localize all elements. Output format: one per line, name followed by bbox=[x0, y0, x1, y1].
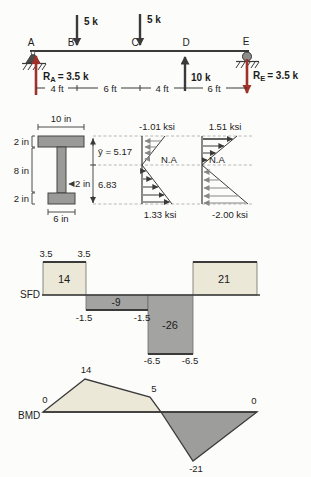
sfd-value-b-neg: -1.5 bbox=[76, 312, 92, 323]
dim-label-4: 6 ft bbox=[207, 83, 221, 94]
dim-label-3: 4 ft bbox=[155, 83, 169, 94]
beam-node-label-e: E bbox=[243, 36, 250, 47]
figure-canvas: A B C D E 5 k 5 k 10 k bbox=[0, 0, 311, 477]
stress-right-bottom-value: -2.00 ksi bbox=[212, 209, 248, 220]
stress-left-top-value: -1.01 ksi bbox=[139, 121, 175, 132]
sfd-value-a: 3.5 bbox=[39, 248, 52, 259]
pin-support-icon bbox=[22, 51, 46, 70]
sfd-value-d-min: -6.5 bbox=[182, 355, 198, 366]
bmd-positive-region bbox=[43, 379, 161, 412]
stress-right-na-label: N.A bbox=[209, 154, 226, 165]
svg-text:6 in: 6 in bbox=[53, 213, 68, 224]
web bbox=[57, 147, 66, 193]
stress-left-bottom-value: 1.33 ksi bbox=[144, 209, 177, 220]
beam-node-label-b: B bbox=[68, 37, 75, 48]
beam-node-label-a: A bbox=[28, 37, 35, 48]
ybar-label: ȳ = 5.17 bbox=[98, 146, 132, 157]
sfd-area-bc: -9 bbox=[112, 297, 121, 308]
bmd-negative-region bbox=[161, 412, 257, 461]
bmd-title: BMD bbox=[18, 410, 40, 421]
tension-arrows-bottom bbox=[143, 171, 170, 202]
bmd-value-c: 5 bbox=[151, 383, 156, 394]
sfd-title: SFD bbox=[20, 289, 40, 300]
sfd-value-c-neg: -1.5 bbox=[134, 312, 150, 323]
bmd-value-a: 0 bbox=[42, 394, 47, 405]
bending-moment-diagram: BMD 0 14 5 -21 0 bbox=[18, 364, 257, 474]
sfd-area-de: 21 bbox=[218, 273, 230, 285]
beam-dimension-line: 4 ft 6 ft 4 ft 6 ft bbox=[36, 83, 247, 94]
compression-arrows-bottom bbox=[204, 172, 246, 203]
dim-label-2: 6 ft bbox=[103, 83, 117, 94]
sfd-area-cd: -26 bbox=[162, 319, 178, 331]
ybottom-label: 6.83 bbox=[98, 179, 117, 190]
beam-analysis-figure: A B C D E 5 k 5 k 10 k bbox=[0, 0, 311, 477]
dim-neutral-axis: ȳ = 5.17 6.83 bbox=[90, 138, 132, 203]
load-label-c: 5 k bbox=[147, 14, 161, 25]
bmd-value-b: 14 bbox=[81, 364, 92, 375]
dim-bottom-width: 6 in bbox=[48, 209, 75, 224]
sfd-value-b-pos: 3.5 bbox=[77, 248, 90, 259]
bottom-flange bbox=[48, 193, 75, 204]
svg-text:10 in: 10 in bbox=[51, 113, 72, 124]
dim-web-height: 8 in bbox=[14, 165, 29, 176]
beam-node-label-d: D bbox=[182, 37, 189, 48]
beam-diagram: A B C D E 5 k 5 k 10 k bbox=[22, 14, 299, 95]
reaction-label-e: RE= 3.5 k bbox=[253, 70, 299, 83]
sfd-area-ab: 14 bbox=[58, 273, 70, 285]
dim-top-width: 10 in bbox=[38, 113, 84, 130]
bmd-value-e: 0 bbox=[251, 395, 256, 406]
sfd-value-c-min: -6.5 bbox=[144, 355, 160, 366]
shear-force-diagram: SFD 3.5 3.5 14 -9 -1.5 -1.5 -26 -6.5 -6.… bbox=[20, 248, 260, 366]
dim-web-width: 2 in bbox=[75, 178, 90, 189]
load-label-b: 5 k bbox=[84, 16, 98, 27]
dim-left-heights bbox=[32, 136, 35, 204]
stress-left-na-label: N.A bbox=[161, 154, 178, 165]
dim-top-flange-t: 2 in bbox=[14, 136, 29, 147]
bmd-value-d: -21 bbox=[189, 463, 203, 474]
beam-node-label-c: C bbox=[131, 37, 138, 48]
load-label-d: 10 k bbox=[191, 72, 211, 83]
dim-label-1: 4 ft bbox=[50, 83, 64, 94]
dim-bottom-flange-t: 2 in bbox=[14, 193, 29, 204]
top-flange bbox=[38, 136, 84, 147]
stress-right-top-value: 1.51 ksi bbox=[209, 121, 242, 132]
